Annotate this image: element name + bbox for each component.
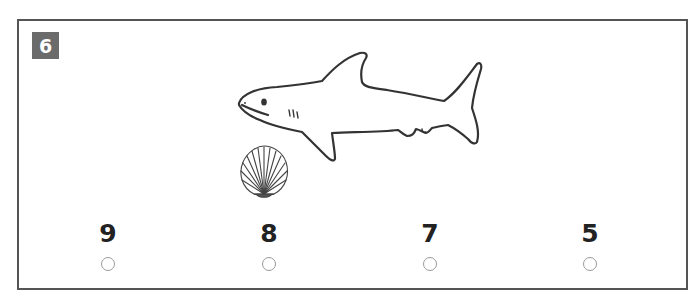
shell-icon	[241, 146, 288, 197]
option-label: 7	[421, 219, 438, 249]
answer-option-5[interactable]: 5	[570, 219, 610, 271]
shark-icon	[239, 53, 481, 161]
option-label: 9	[99, 219, 116, 249]
radio-button[interactable]	[262, 257, 276, 271]
radio-button[interactable]	[101, 257, 115, 271]
option-label: 5	[581, 219, 598, 249]
answer-option-8[interactable]: 8	[249, 219, 289, 271]
option-label: 8	[260, 219, 277, 249]
answer-option-7[interactable]: 7	[410, 219, 450, 271]
radio-button[interactable]	[423, 257, 437, 271]
radio-button[interactable]	[583, 257, 597, 271]
answer-option-9[interactable]: 9	[88, 219, 128, 271]
question-card: 6 9	[17, 19, 688, 290]
